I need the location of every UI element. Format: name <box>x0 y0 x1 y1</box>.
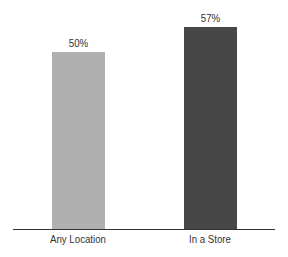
value-label-any-location: 50% <box>55 37 102 49</box>
bar-chart: 50% 57% Any Location In a Store <box>0 0 288 257</box>
bar-any-location <box>52 52 105 230</box>
category-label-any-location: Any Location <box>34 233 122 245</box>
value-label-in-a-store: 57% <box>187 12 234 24</box>
bar-in-a-store <box>184 27 237 230</box>
category-label-in-a-store: In a Store <box>166 233 254 245</box>
x-axis-baseline <box>13 229 275 230</box>
